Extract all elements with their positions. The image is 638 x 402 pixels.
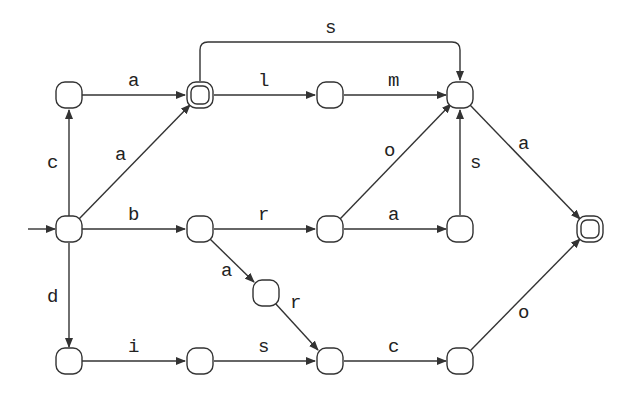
edge-n12-n13: s [214, 336, 315, 361]
edge-label: i [128, 336, 139, 358]
edge-label: c [388, 336, 399, 358]
state-n10 [253, 280, 279, 306]
edge-n7-n4: o [340, 104, 451, 219]
edge-label: a [115, 144, 126, 166]
edge-n8-n4: s [460, 110, 481, 215]
state-n8 [447, 216, 473, 242]
edge-label: d [47, 286, 58, 308]
edge-label: s [325, 17, 336, 39]
state-n11 [56, 348, 82, 374]
edge-label: m [388, 70, 399, 92]
state-n12 [187, 348, 213, 374]
state-n6 [187, 216, 213, 242]
edge-n6-n10: a [210, 239, 254, 282]
state-n13 [317, 348, 343, 374]
edge-n3-n4: m [344, 70, 446, 95]
edge-n1-n2: a [82, 70, 185, 95]
edge-n5-n1: c [47, 110, 69, 216]
edge-n7-n8: a [344, 204, 446, 229]
edge-n2-n3: l [214, 70, 315, 95]
state-n9-accepting [577, 216, 603, 242]
state-n5-start [56, 216, 82, 242]
edge-n5-n2: a [79, 105, 190, 219]
edge-label: a [388, 204, 399, 226]
edge-label: s [258, 336, 269, 358]
edge-label: l [258, 70, 269, 92]
edge-n11-n12: i [82, 336, 185, 361]
edge-label: a [221, 260, 232, 282]
edge-label: b [128, 204, 139, 226]
automaton-diagram: a c a l s m o s a b r a [0, 0, 638, 402]
edge-n10-n13: r [275, 292, 318, 350]
state-n1 [56, 82, 82, 108]
edge-label: c [47, 152, 58, 174]
state-n3 [317, 82, 343, 108]
edge-n5-n6: b [82, 204, 185, 229]
edge-n13-n14: c [344, 336, 446, 361]
edge-label: r [290, 292, 301, 314]
state-n2-accepting [187, 82, 213, 108]
edge-label: s [470, 152, 481, 174]
edge-n6-n7: r [214, 204, 315, 229]
edge-label: o [384, 140, 395, 162]
edge-label: a [128, 70, 139, 92]
edge-n4-n9: a [470, 105, 580, 219]
edge-n5-n11: d [47, 243, 69, 347]
edge-label: a [518, 133, 529, 155]
edge-n2-n4: s [200, 17, 460, 81]
state-n4 [447, 82, 473, 108]
edge-n14-n9: o [470, 239, 580, 351]
edge-label: o [518, 302, 529, 324]
state-n7 [317, 216, 343, 242]
state-n14 [447, 348, 473, 374]
edge-label: r [258, 204, 269, 226]
